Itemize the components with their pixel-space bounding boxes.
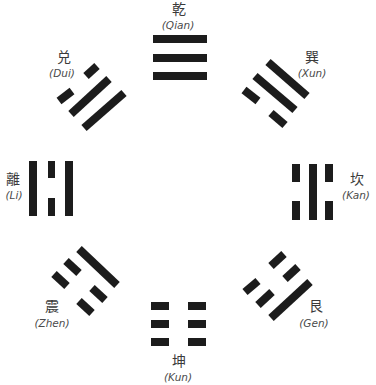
kan-line-outer-b	[325, 201, 333, 220]
trigram-zhen: 震 (Zhen)	[34, 249, 117, 329]
trigram-li-pinyin: (Li)	[6, 189, 23, 201]
qian-line-outer	[153, 35, 207, 43]
zhen-line-outer-b	[79, 301, 92, 313]
zhen-line-middle-b	[92, 288, 105, 300]
trigram-qian-pinyin: (Qian)	[162, 19, 194, 31]
trigram-dui: 兑 (Dui)	[49, 49, 124, 128]
kan-line-inner-a	[292, 164, 300, 182]
trigram-li: 離 (Li)	[6, 161, 73, 216]
kan-line-inner-b	[292, 201, 300, 220]
kun-line-middle-b	[188, 320, 206, 328]
trigram-kun-pinyin: (Kun)	[164, 371, 192, 383]
li-line-middle-a	[48, 161, 55, 178]
xun-line-inner-a	[244, 90, 258, 101]
kun-line-inner-b	[188, 302, 206, 310]
trigram-xun: 巽 (Xun)	[244, 49, 326, 125]
trigram-kun-hanzi: 坤	[172, 353, 186, 369]
li-line-outer	[29, 161, 37, 216]
trigram-qian-hanzi: 乾	[172, 1, 186, 17]
dui-line-outer-b	[59, 91, 72, 101]
gen-line-inner-b	[271, 254, 284, 266]
trigram-zhen-pinyin: (Zhen)	[34, 317, 69, 329]
gen-line-middle-b	[285, 267, 298, 279]
li-line-inner	[65, 161, 73, 216]
gen-line-outer	[271, 282, 310, 318]
trigram-gen-hanzi: 艮	[309, 298, 323, 314]
gen-line-middle-a	[258, 292, 272, 305]
zhen-line-inner	[79, 249, 117, 285]
xun-line-inner-b	[271, 113, 285, 125]
trigram-dui-pinyin: (Dui)	[49, 67, 75, 79]
bagua-diagram: 乾 (Qian) 巽 (Xun) 坎 (Kan) 艮 (Gen)	[0, 0, 376, 385]
kun-line-middle-a	[151, 320, 169, 328]
trigram-gen: 艮 (Gen)	[245, 254, 329, 329]
qian-line-middle	[153, 54, 207, 62]
zhen-line-middle-a	[66, 261, 79, 273]
trigram-gen-pinyin: (Gen)	[299, 317, 328, 329]
trigram-kan-hanzi: 坎	[350, 171, 364, 187]
qian-line-inner	[153, 72, 207, 80]
trigram-kun: 坤 (Kun)	[151, 302, 206, 383]
kun-line-outer-a	[151, 338, 169, 346]
trigram-li-hanzi: 離	[6, 171, 20, 187]
dui-line-outer-a	[86, 66, 97, 76]
kun-line-inner-a	[151, 302, 169, 310]
trigram-kan: 坎 (Kan)	[292, 164, 370, 220]
trigram-zhen-hanzi: 震	[45, 298, 59, 314]
trigram-xun-pinyin: (Xun)	[298, 67, 327, 79]
li-line-middle-b	[48, 198, 55, 216]
trigram-qian: 乾 (Qian)	[153, 1, 207, 80]
trigram-dui-hanzi: 兑	[57, 49, 71, 65]
kun-line-outer-b	[188, 338, 206, 346]
trigram-kan-pinyin: (Kan)	[342, 189, 370, 201]
kan-line-outer-a	[325, 164, 333, 182]
trigram-xun-hanzi: 巽	[305, 49, 319, 65]
gen-line-inner-a	[245, 281, 258, 292]
kan-line-middle	[309, 164, 317, 220]
zhen-line-outer-a	[54, 274, 67, 286]
